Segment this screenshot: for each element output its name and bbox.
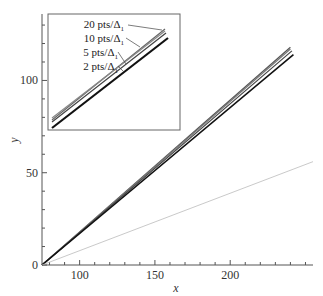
x-tick-label: 100	[71, 268, 89, 282]
y-tick-label: 50	[26, 166, 38, 180]
x-tick-labels: 100150200	[71, 268, 240, 282]
x-axis-label: x	[172, 281, 179, 295]
inset-panel: 20 pts/Δ110 pts/Δ15 pts/Δ12 pts/Δ1	[48, 14, 180, 130]
x-ticks	[50, 260, 306, 265]
y-tick-labels: 050100	[20, 73, 38, 272]
x-tick-label: 200	[221, 268, 239, 282]
y-tick-label: 0	[32, 258, 38, 272]
y-tick-label: 100	[20, 73, 38, 87]
series-line	[42, 162, 313, 265]
x-tick-label: 150	[146, 268, 164, 282]
y-axis-label: y	[7, 137, 21, 144]
line-chart: 100150200 050100 x y 20 pts/Δ110 pts/Δ15…	[0, 0, 323, 296]
y-ticks	[42, 25, 47, 265]
